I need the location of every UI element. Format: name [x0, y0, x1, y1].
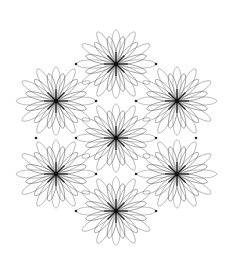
- flower-upper-right: [137, 67, 217, 135]
- flowers-layer: [16, 30, 217, 245]
- flower-lower-left: [16, 140, 96, 208]
- flower-center: [175, 99, 179, 103]
- vertex-dot: [95, 173, 98, 176]
- flower-center: [175, 172, 179, 176]
- flower-center: [54, 99, 58, 103]
- vertex-dot: [155, 210, 158, 213]
- flower-pattern-svg: [0, 0, 228, 261]
- flower-center: [114, 209, 118, 213]
- flower-center: [114, 136, 118, 140]
- vertex-dot: [135, 100, 138, 103]
- flower-upper-left: [16, 67, 96, 135]
- vertex-dot: [75, 137, 78, 140]
- flower-middle: [76, 104, 156, 172]
- vertex-dot: [195, 137, 198, 140]
- flower-center: [54, 172, 58, 176]
- flower-center: [114, 62, 118, 66]
- flower-bottom: [76, 177, 156, 245]
- flower-lower-right: [137, 140, 217, 208]
- vertex-dot: [75, 63, 78, 66]
- flower-top: [76, 30, 156, 98]
- flower-pattern-figure: [0, 0, 228, 261]
- vertex-dot: [95, 100, 98, 103]
- vertex-dot: [75, 210, 78, 213]
- vertex-dot: [155, 137, 158, 140]
- vertex-dot: [35, 137, 38, 140]
- vertex-dot: [155, 63, 158, 66]
- vertex-dot: [135, 173, 138, 176]
